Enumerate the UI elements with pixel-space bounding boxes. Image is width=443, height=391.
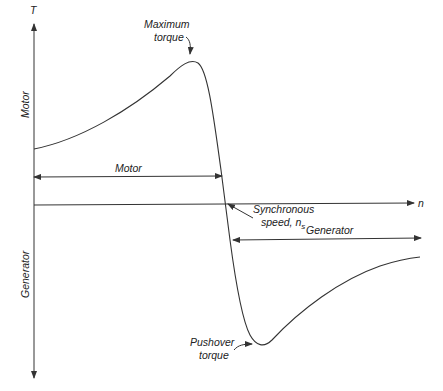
torque-axis-label: T	[30, 4, 38, 16]
speed-axis	[34, 203, 414, 205]
generator-region-label: Generator	[19, 250, 31, 298]
sync-speed-label-line2: speed, ns	[261, 216, 305, 231]
sync-speed-label-line1: Synchronous	[253, 203, 315, 215]
sync-speed-pointer-arrow	[228, 204, 253, 218]
generator-range-label: Generator	[306, 224, 354, 236]
pushover-label-line1: Pushover	[190, 336, 235, 348]
torque-speed-diagram: T n Motor Generator Maximum torque Motor…	[0, 0, 443, 391]
max-torque-label-line2: torque	[154, 31, 184, 43]
generator-range-arrow	[233, 238, 421, 240]
pushover-pointer-arrow	[234, 344, 252, 350]
speed-axis-label: n	[418, 197, 424, 209]
sync-speed-subscript: s	[301, 222, 305, 231]
max-torque-label-line1: Maximum	[144, 18, 190, 30]
sync-speed-text: speed, n	[261, 216, 301, 228]
motor-range-label: Motor	[115, 162, 142, 174]
motor-region-label: Motor	[19, 91, 31, 118]
motor-range-arrow	[34, 176, 222, 177]
pushover-label-line2: torque	[199, 349, 229, 361]
max-torque-pointer-arrow	[186, 37, 190, 54]
